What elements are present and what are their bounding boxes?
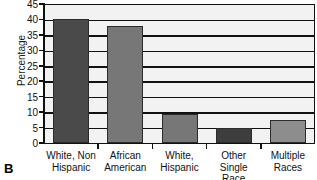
x-axis-tick-label-line: White, Non xyxy=(44,150,98,162)
y-axis-tick xyxy=(39,34,44,36)
x-axis-tick-label-line: African xyxy=(98,150,152,162)
y-axis-tick xyxy=(39,50,44,52)
y-axis-tick xyxy=(39,96,44,98)
y-axis-tick xyxy=(39,65,44,67)
x-axis-tick-label-line: Other Single xyxy=(207,150,261,173)
bar xyxy=(216,128,252,143)
x-axis-tick xyxy=(206,144,208,149)
y-axis-tick-label: 30 xyxy=(27,45,38,56)
y-axis-tick-labels: 051015202530354045 xyxy=(14,4,38,143)
bar xyxy=(162,114,198,143)
panel-letter: B xyxy=(4,161,13,176)
x-axis-ticks xyxy=(44,144,315,149)
x-axis-tick-label-line: White, xyxy=(152,150,206,162)
x-axis-tick xyxy=(152,144,154,149)
x-axis-tick xyxy=(260,144,262,149)
x-axis-tick-label-line: Hispanic xyxy=(152,162,206,174)
bar xyxy=(53,19,89,143)
x-axis-tick-label-line: American xyxy=(98,162,152,174)
y-axis-tick-label: 40 xyxy=(27,14,38,25)
y-axis-tick-label: 45 xyxy=(27,0,38,10)
bar xyxy=(270,120,306,143)
x-axis-tick-label: Other SingleRace xyxy=(207,150,261,180)
y-axis-tick-label: 10 xyxy=(27,107,38,118)
x-axis-tick-label: White, NonHispanic xyxy=(44,150,98,173)
y-axis-tick-label: 20 xyxy=(27,76,38,87)
y-axis-tick-label: 25 xyxy=(27,60,38,71)
x-axis-tick-labels: White, NonHispanicAfricanAmericanWhite,H… xyxy=(44,150,315,178)
bar xyxy=(107,26,143,143)
y-axis-tick xyxy=(39,111,44,113)
y-axis-tick-label: 15 xyxy=(27,91,38,102)
x-axis-tick-label-line: Hispanic xyxy=(44,162,98,174)
x-axis-tick-label: MultipleRaces xyxy=(261,150,315,173)
y-axis-ticks xyxy=(44,4,45,143)
x-axis-tick-label-line: Multiple xyxy=(261,150,315,162)
y-axis-tick xyxy=(39,3,44,5)
x-axis-tick xyxy=(97,144,99,149)
y-axis-tick xyxy=(39,19,44,21)
chart-figure: Percentage 051015202530354045 White, Non… xyxy=(0,0,317,180)
y-axis-tick-label: 35 xyxy=(27,29,38,40)
y-axis-tick xyxy=(39,127,44,129)
x-axis-tick-label-line: Races xyxy=(261,162,315,174)
plot-area xyxy=(44,4,315,143)
y-axis-tick-label: 0 xyxy=(32,138,38,149)
y-axis-tick-label: 5 xyxy=(32,122,38,133)
x-axis-tick-label-line: Race xyxy=(207,173,261,180)
x-axis-tick-label: AfricanAmerican xyxy=(98,150,152,173)
y-axis-tick xyxy=(39,80,44,82)
x-axis-tick-label: White,Hispanic xyxy=(152,150,206,173)
